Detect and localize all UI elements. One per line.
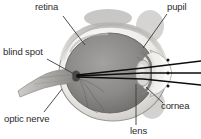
label-cornea: cornea: [161, 101, 189, 111]
ray-marker-2: [167, 72, 170, 75]
ray-marker-3: [167, 85, 170, 88]
label-pupil: pupil: [167, 2, 187, 12]
label-retina: retina: [35, 2, 58, 12]
ray-marker-1: [167, 59, 170, 62]
label-lens: lens: [130, 126, 147, 136]
label-optic-nerve: optic nerve: [4, 114, 49, 124]
label-blind-spot: blind spot: [3, 47, 43, 57]
lens-highlight: [138, 64, 144, 76]
